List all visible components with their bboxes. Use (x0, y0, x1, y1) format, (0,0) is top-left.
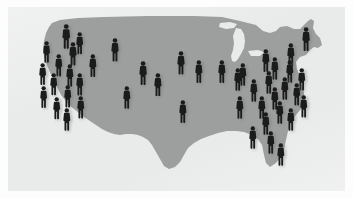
person-pictogram-icon (75, 73, 85, 96)
person-body (110, 38, 120, 62)
person-body (178, 100, 188, 123)
person-pictogram-icon (217, 60, 227, 83)
person-pictogram-icon (299, 95, 309, 118)
person-body (301, 27, 311, 51)
person-body (88, 54, 98, 77)
person-body (194, 60, 204, 83)
person-pictogram-icon (176, 51, 186, 75)
person-body (276, 143, 286, 166)
person-pictogram-icon (110, 38, 120, 62)
person-pictogram-icon (62, 108, 72, 131)
person-pictogram-icon (238, 63, 248, 86)
screenshot-root: United States population pictogram map 4… (0, 0, 353, 198)
person-pictogram-icon (88, 54, 98, 77)
person-body (286, 108, 296, 131)
person-body (266, 131, 276, 154)
person-pictogram-icon (38, 63, 47, 85)
person-pictogram-icon (194, 60, 204, 83)
person-pictogram-icon (275, 101, 285, 124)
person-pictogram-icon (178, 100, 188, 123)
person-body (38, 63, 47, 85)
person-pictogram-icon (76, 96, 86, 119)
person-body (52, 97, 61, 120)
person-body (275, 101, 285, 124)
person-pictogram-icon (63, 85, 73, 108)
person-body (153, 73, 163, 97)
person-body (248, 126, 258, 149)
person-pictogram-icon (138, 61, 148, 85)
person-body (65, 64, 75, 87)
person-pictogram-icon (65, 64, 75, 87)
person-pictogram-icon (75, 32, 84, 55)
person-body (299, 95, 309, 118)
person-body (138, 61, 148, 85)
person-pictogram-icon (248, 126, 258, 149)
person-body (39, 86, 48, 108)
person-pictogram-icon (42, 41, 51, 63)
us-map-figure (8, 7, 345, 191)
person-body (217, 60, 227, 83)
person-body (63, 85, 73, 108)
person-pictogram-icon (39, 86, 48, 108)
person-body (42, 41, 51, 63)
person-pictogram-icon (122, 86, 132, 109)
person-body (76, 96, 86, 119)
person-pictogram-icon (52, 97, 61, 120)
person-pictogram-icon (266, 131, 276, 154)
person-pictogram-icon (276, 143, 286, 166)
person-pictogram-icon (286, 108, 296, 131)
person-body (238, 63, 248, 86)
person-body (75, 32, 84, 55)
person-body (176, 51, 186, 75)
person-body (122, 86, 132, 109)
person-pictogram-icon (153, 73, 163, 97)
person-body (235, 96, 245, 119)
person-pictogram-icon (301, 27, 311, 51)
person-body (62, 108, 72, 131)
person-body (75, 73, 85, 96)
person-pictogram-icon (235, 96, 245, 119)
